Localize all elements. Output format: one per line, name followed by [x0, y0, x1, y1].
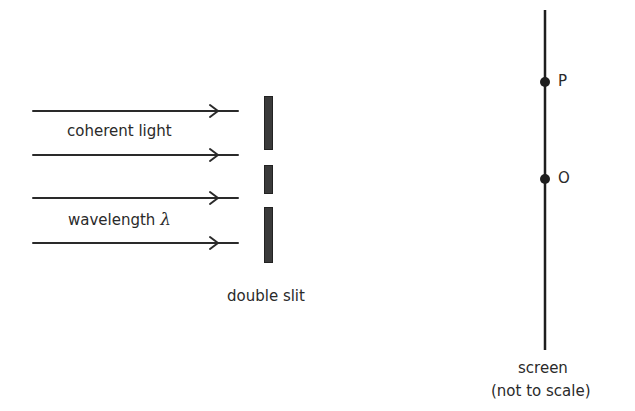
- barrier-bottom: [265, 208, 273, 263]
- ray-4: [33, 237, 238, 249]
- point-p-label: P: [558, 74, 567, 89]
- ray-3: [33, 192, 238, 204]
- screen-label: screen: [518, 361, 568, 376]
- ray-2: [33, 149, 238, 161]
- wavelength-text: wavelength: [68, 211, 160, 229]
- lambda-symbol: λ: [160, 209, 171, 229]
- wavelength-label: wavelength λ: [68, 211, 171, 228]
- coherent-light-label: coherent light: [67, 124, 172, 139]
- point-p-dot: [540, 77, 550, 87]
- double-slit-label: double slit: [227, 289, 305, 304]
- point-o-label: O: [558, 171, 570, 186]
- barrier-top: [265, 97, 273, 150]
- barrier-middle: [265, 166, 273, 194]
- double-slit-diagram: [0, 0, 635, 411]
- ray-1: [33, 105, 238, 117]
- not-to-scale-note: (not to scale): [491, 384, 591, 399]
- slit-barrier: [265, 97, 273, 263]
- point-o-dot: [540, 174, 550, 184]
